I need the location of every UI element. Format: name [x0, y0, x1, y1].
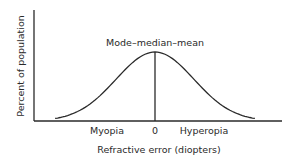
refractive-error-diagram: Percent of population Mode–median–mean M… — [0, 0, 293, 164]
mode-median-mean-label: Mode–median–mean — [106, 37, 204, 48]
x-label-zero: 0 — [152, 125, 158, 136]
x-label-myopia: Myopia — [90, 125, 124, 136]
x-label-hyperopia: Hyperopia — [180, 125, 229, 136]
x-axis-label: Refractive error (diopters) — [97, 144, 221, 155]
y-axis-label: Percent of population — [15, 15, 26, 117]
